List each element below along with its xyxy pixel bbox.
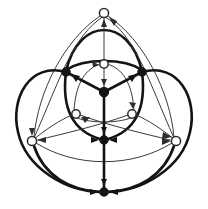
outer-bottom-node[interactable] bbox=[100, 188, 108, 196]
inner-lower-right-node[interactable] bbox=[128, 110, 136, 118]
outer-left-node[interactable] bbox=[27, 136, 36, 145]
graph-diagram bbox=[0, 0, 208, 209]
ring-upper-left-node[interactable] bbox=[62, 68, 70, 76]
inner-lower-left-node[interactable] bbox=[72, 110, 80, 118]
figure-root bbox=[0, 0, 208, 209]
ring-upper-right-node[interactable] bbox=[138, 68, 146, 76]
outer-right-node[interactable] bbox=[171, 136, 180, 145]
inner-top-node[interactable] bbox=[100, 60, 108, 68]
ring-bottom-node[interactable] bbox=[100, 136, 108, 144]
outer-top-node[interactable] bbox=[99, 8, 108, 17]
center-hub-node[interactable] bbox=[99, 87, 108, 96]
